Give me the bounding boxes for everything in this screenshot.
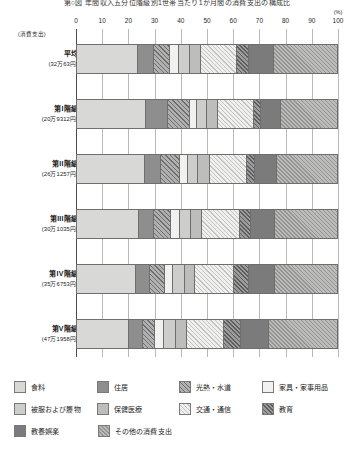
legend-swatch-icon xyxy=(262,381,274,393)
bar-row-amount: (20万9312円) xyxy=(8,114,78,123)
legend-swatch-icon xyxy=(262,403,274,415)
gridline xyxy=(155,29,156,357)
chart-legend: 食料住居光熱・水道家具・家事用品被服および履物保健医療交通・通信教育教養娯楽その… xyxy=(14,376,344,442)
legend-item[interactable]: 家具・家事用品 xyxy=(262,381,345,393)
legend-label: その他の消費支出 xyxy=(115,426,172,436)
bar-segment xyxy=(188,155,198,183)
bar-segment xyxy=(237,45,249,73)
bar-row-label: 第III階級(30万1035円) xyxy=(8,213,78,233)
bar-segment xyxy=(143,320,155,348)
bar-segment xyxy=(234,265,249,293)
bar-segment xyxy=(190,45,201,73)
x-axis-tick-labels: 0102030405060708090100(%) xyxy=(0,17,354,29)
stacked-bar xyxy=(76,99,338,129)
legend-label: 教育 xyxy=(279,404,293,414)
bar-segment xyxy=(274,45,337,73)
x-tick-label: 70 xyxy=(256,17,263,24)
legend-item[interactable]: 保健医療 xyxy=(97,403,180,415)
stacked-bar xyxy=(76,319,338,349)
bar-row: 平均(32万63円) xyxy=(0,44,354,74)
legend-swatch-icon xyxy=(179,381,191,393)
bar-row-category: 平均 xyxy=(8,48,78,58)
bar-segment xyxy=(161,155,180,183)
bar-row: 第V階級(47万1958円) xyxy=(0,319,354,349)
gridline xyxy=(338,29,339,357)
bar-segment xyxy=(185,265,196,293)
bar-segment xyxy=(190,100,198,128)
legend-item[interactable]: その他の消費支出 xyxy=(98,425,182,437)
bar-segment xyxy=(146,100,168,128)
bar-segment xyxy=(170,45,179,73)
gridline xyxy=(128,29,129,357)
x-tick-label: 30 xyxy=(151,17,158,24)
legend-label: 住居 xyxy=(114,382,128,392)
gridline xyxy=(233,29,234,357)
bar-segment xyxy=(249,265,275,293)
bar-row: 第III階級(30万1035円) xyxy=(0,209,354,239)
x-tick-label: 90 xyxy=(308,17,315,24)
x-tick-label: 80 xyxy=(282,17,289,24)
bar-segment xyxy=(195,265,234,293)
bar-row-label: 平均(32万63円) xyxy=(8,48,78,68)
gridline xyxy=(181,29,182,357)
bar-row: 第I階級(20万9312円) xyxy=(0,99,354,129)
bar-segment xyxy=(77,100,146,128)
bar-row-category: 第I階級 xyxy=(8,103,78,113)
bar-row-category: 第III階級 xyxy=(8,213,78,223)
legend-row: 被服および履物保健医療交通・通信教育 xyxy=(14,398,344,420)
bar-segment xyxy=(224,320,241,348)
legend-swatch-icon xyxy=(14,403,26,415)
bar-segment xyxy=(249,45,274,73)
bar-segment xyxy=(138,45,154,73)
bar-segment xyxy=(198,155,209,183)
bar-segment xyxy=(171,210,180,238)
bar-segment xyxy=(191,210,202,238)
legend-item[interactable]: 光熱・水道 xyxy=(179,381,262,393)
bar-segment xyxy=(269,320,337,348)
bar-row-label: 第I階級(20万9312円) xyxy=(8,103,78,123)
bar-segment xyxy=(261,100,282,128)
legend-item[interactable]: 食料 xyxy=(14,381,97,393)
bar-segment xyxy=(77,320,129,348)
legend-item[interactable]: 交通・通信 xyxy=(179,403,262,415)
legend-label: 光熱・水道 xyxy=(196,382,232,392)
legend-item[interactable]: 教養娯楽 xyxy=(14,425,98,437)
legend-label: 家具・家事用品 xyxy=(279,382,329,392)
bar-row-label: 第V階級(47万1958円) xyxy=(8,323,78,343)
legend-swatch-icon xyxy=(97,381,109,393)
gridline xyxy=(102,29,103,357)
stacked-bar-chart: (消費支出) 0102030405060708090100(%) 平均(32万6… xyxy=(0,0,354,372)
bar-segment xyxy=(139,210,154,238)
x-tick-label: 100 xyxy=(333,17,344,24)
stacked-bar xyxy=(76,264,338,294)
bar-segment xyxy=(77,265,136,293)
legend-label: 交通・通信 xyxy=(196,404,232,414)
bar-row-category: 第V階級 xyxy=(8,323,78,333)
legend-item[interactable]: 教育 xyxy=(262,403,345,415)
bar-segment xyxy=(187,320,224,348)
x-tick-label: 10 xyxy=(99,17,106,24)
gridline xyxy=(207,29,208,357)
bar-segment xyxy=(77,45,138,73)
bar-segment xyxy=(180,155,188,183)
legend-label: 食料 xyxy=(31,382,45,392)
bar-segment xyxy=(255,155,277,183)
bar-segment xyxy=(281,100,337,128)
bar-segment xyxy=(129,320,143,348)
bar-segment xyxy=(275,265,337,293)
legend-swatch-icon xyxy=(98,425,110,437)
legend-row: 食料住居光熱・水道家具・家事用品 xyxy=(14,376,344,398)
stacked-bar xyxy=(76,209,338,239)
stacked-bar xyxy=(76,154,338,184)
gridline xyxy=(259,29,260,357)
legend-item[interactable]: 被服および履物 xyxy=(14,403,97,415)
bar-segment xyxy=(207,100,218,128)
bar-segment xyxy=(202,210,240,238)
bar-segment xyxy=(179,45,190,73)
legend-item[interactable]: 住居 xyxy=(97,381,180,393)
bar-segment xyxy=(176,320,186,348)
bar-segment xyxy=(277,155,337,183)
bar-segment xyxy=(180,210,191,238)
bar-segment xyxy=(164,320,176,348)
legend-swatch-icon xyxy=(14,381,26,393)
